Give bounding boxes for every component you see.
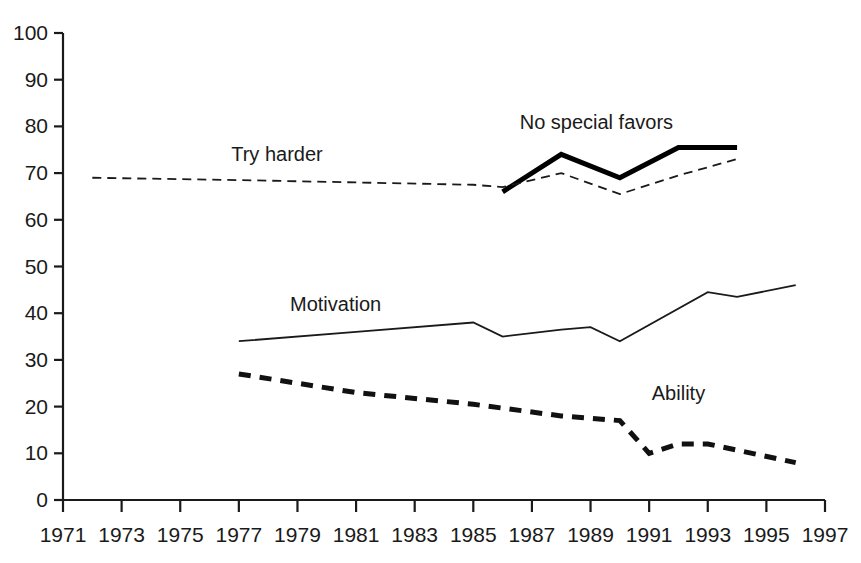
series-label-motivation: Motivation <box>290 293 381 315</box>
x-axis-tick-label: 1977 <box>215 523 262 546</box>
x-axis-tick-label: 1975 <box>157 523 204 546</box>
y-axis-tick-label: 30 <box>25 348 48 371</box>
x-axis-tick-label: 1987 <box>509 523 556 546</box>
series-lines <box>92 147 795 462</box>
y-axis-tick-label: 70 <box>25 161 48 184</box>
x-axis-tick-label: 1971 <box>40 523 87 546</box>
x-axis-tick-label: 1993 <box>684 523 731 546</box>
x-axis-tick-label: 1991 <box>626 523 673 546</box>
y-axis-tick-label: 50 <box>25 255 48 278</box>
series-label-try-harder: Try harder <box>231 143 323 165</box>
series-annotations: No special favorsTry harderMotivationAbi… <box>231 111 705 404</box>
y-axis: 0102030405060708090100 <box>13 21 63 511</box>
y-axis-tick-label: 100 <box>13 21 48 44</box>
y-axis-tick-label: 90 <box>25 68 48 91</box>
x-axis-tick-label: 1989 <box>567 523 614 546</box>
y-axis-tick-label: 40 <box>25 301 48 324</box>
y-axis-tick-label: 60 <box>25 208 48 231</box>
x-axis-tick-label: 1979 <box>274 523 321 546</box>
chart-canvas: 0102030405060708090100 19711973197519771… <box>0 0 861 563</box>
y-axis-tick-label: 0 <box>36 488 48 511</box>
series-line-ability <box>239 374 796 463</box>
x-axis: 1971197319751977197919811983198519871989… <box>40 500 849 546</box>
y-axis-tick-label: 80 <box>25 114 48 137</box>
x-axis-tick-label: 1995 <box>743 523 790 546</box>
x-axis-tick-label: 1981 <box>333 523 380 546</box>
x-axis-tick-label: 1985 <box>450 523 497 546</box>
series-label-ability: Ability <box>652 382 705 404</box>
series-label-no-special-favors: No special favors <box>520 111 673 133</box>
x-axis-tick-label: 1983 <box>391 523 438 546</box>
line-chart: 0102030405060708090100 19711973197519771… <box>0 0 861 563</box>
x-axis-tick-label: 1997 <box>802 523 849 546</box>
y-axis-tick-label: 20 <box>25 395 48 418</box>
y-axis-tick-label: 10 <box>25 441 48 464</box>
x-axis-tick-label: 1973 <box>98 523 145 546</box>
